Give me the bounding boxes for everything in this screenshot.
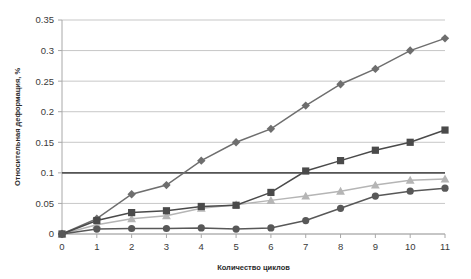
x-tick-label: 0 [59,241,64,252]
x-tick-label: 11 [440,241,450,252]
marker-square [163,207,170,214]
y-axis-tick-labels: 00.050.10.150.20.250.30.35 [36,14,55,239]
marker-circle [93,226,100,233]
x-tick-label: 8 [338,241,343,252]
marker-square [372,147,379,154]
marker-square [93,217,100,224]
marker-square [267,189,274,196]
marker-circle [302,217,309,224]
x-tick-label: 4 [199,241,204,252]
x-tick-label: 9 [373,241,378,252]
y-axis-title: Относительная деформация, % [13,68,22,187]
marker-square [407,139,414,146]
marker-circle [128,225,135,232]
marker-circle [372,192,379,199]
y-tick-label: 0.05 [36,198,55,209]
marker-circle [337,205,344,212]
marker-square [441,126,448,133]
y-tick-label: 0 [49,228,54,239]
y-tick-label: 0.1 [41,167,54,178]
marker-circle [163,225,170,232]
x-tick-label: 5 [233,241,238,252]
marker-circle [441,185,448,192]
y-tick-label: 0.3 [41,45,54,56]
y-tick-label: 0.15 [36,137,55,148]
x-tick-label: 6 [268,241,273,252]
x-axis-tick-labels: 01234567891011 [59,241,450,252]
marker-circle [58,230,65,237]
x-tick-label: 7 [303,241,308,252]
line-chart: 00.050.10.150.20.250.30.3501234567891011… [0,0,471,279]
y-tick-label: 0.35 [36,14,55,25]
x-tick-label: 10 [405,241,416,252]
marker-square [337,157,344,164]
marker-circle [232,226,239,233]
chart-container: 00.050.10.150.20.250.30.3501234567891011… [0,0,471,279]
marker-square [128,209,135,216]
x-tick-label: 1 [94,241,99,252]
marker-circle [198,224,205,231]
marker-square [302,167,309,174]
marker-square [198,203,205,210]
x-axis-title: Количество циклов [217,263,290,272]
marker-circle [267,224,274,231]
y-tick-label: 0.25 [36,76,55,87]
marker-square [232,202,239,209]
x-tick-label: 3 [164,241,169,252]
marker-circle [407,188,414,195]
x-tick-label: 2 [129,241,134,252]
y-tick-label: 0.2 [41,106,54,117]
